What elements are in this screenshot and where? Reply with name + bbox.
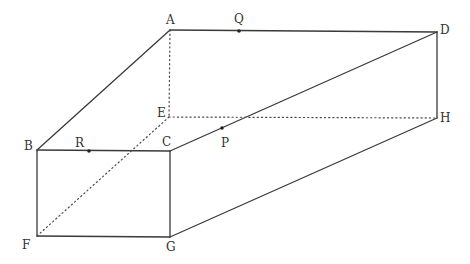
edge-AB (37, 30, 170, 150)
label-B: B (24, 139, 33, 153)
edge-FG (37, 236, 170, 237)
point-Q (237, 29, 241, 33)
edge-AE (169, 30, 170, 117)
edge-BC (37, 150, 170, 151)
hidden-edges (37, 30, 437, 236)
point-P (220, 126, 224, 130)
label-Q: Q (234, 12, 244, 26)
edge-EF (37, 117, 169, 236)
solid-edges (37, 30, 437, 237)
label-H: H (440, 111, 450, 125)
label-G: G (166, 240, 176, 254)
label-R: R (75, 136, 85, 150)
label-A: A (165, 13, 175, 27)
edge-GH (170, 118, 437, 237)
label-D: D (440, 23, 450, 37)
label-E: E (157, 106, 166, 120)
label-C: C (162, 135, 171, 149)
cuboid-diagram: A Q D E H B R C P F G (0, 0, 470, 264)
label-P: P (221, 136, 229, 150)
edge-AD (170, 30, 437, 32)
point-R (87, 149, 91, 153)
edge-CD (170, 32, 437, 151)
label-F: F (22, 238, 30, 252)
labels: A Q D E H B R C P F G (22, 12, 450, 254)
edge-EH (169, 117, 437, 118)
